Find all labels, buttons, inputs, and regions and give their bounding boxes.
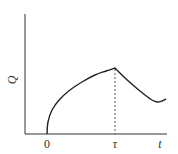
q-curve [47,68,166,134]
tau-tick-label: τ [113,137,118,151]
origin-tick-label: 0 [44,137,50,151]
y-axis-label: Q [5,75,19,84]
diagram: Q 0 τ t [0,0,178,154]
x-axis-label: t [158,137,162,151]
